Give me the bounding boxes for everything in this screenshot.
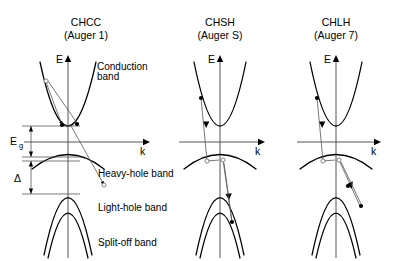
chcc-split-off-energy-label: Δ (14, 172, 21, 184)
panel-chlh: CHLH (Auger 7) E k (297, 16, 381, 258)
panel-chlh-title-line1: CHLH (322, 16, 351, 28)
chlh-excited-hole-marker (359, 204, 363, 208)
panel-chsh-title-line2: (Auger S) (198, 29, 243, 41)
chcc-gap-arrow-up (29, 126, 33, 132)
chcc-split-arrow-up (29, 161, 33, 167)
chcc-conduction-band-label-line2: band (97, 71, 119, 82)
chcc-electron-marker-1 (60, 123, 64, 127)
chsh-energy-axis-label: E (208, 53, 215, 65)
chcc-energy-gap-subscript: g (19, 141, 23, 150)
chlh-energy-axis-arrowhead (333, 55, 339, 62)
panel-chcc-title-line1: CHCC (71, 16, 102, 28)
chsh-split-off-hole-marker (230, 220, 234, 224)
chlh-transition-light-hole-path (341, 162, 362, 206)
auger-band-diagram-figure: CHCC (Auger 1) E k Conduction band E g (0, 0, 399, 261)
chcc-electron-marker-2 (75, 122, 79, 126)
chcc-transition-excited-electron (46, 82, 62, 125)
chlh-momentum-axis-label: k (371, 145, 377, 157)
chcc-transition-collision-path (48, 81, 77, 123)
chcc-momentum-axis-label: k (140, 145, 146, 157)
panel-chcc: CHCC (Auger 1) E k Conduction band E g (10, 16, 174, 258)
chcc-energy-axis-label: E (56, 53, 63, 65)
chlh-valence-marker-left (321, 159, 325, 163)
chcc-heavy-hole-band-label: Heavy-hole band (98, 168, 174, 179)
chsh-transition-split-off-path (224, 163, 232, 222)
chlh-electron-marker (315, 96, 319, 100)
chsh-valence-marker-left (205, 159, 209, 163)
chcc-hole-marker (102, 183, 106, 187)
chsh-momentum-axis-label: k (255, 145, 261, 157)
chcc-excited-electron-marker (44, 79, 48, 83)
panel-chsh: CHSH (Auger S) E k (179, 16, 265, 258)
panel-chlh-title-line2: (Auger 7) (314, 29, 358, 41)
chcc-gap-arrow-down (29, 152, 33, 158)
chcc-energy-gap-label: E (10, 135, 17, 147)
chcc-light-hole-band-label: Light-hole band (98, 202, 167, 213)
band-diagram-svg: CHCC (Auger 1) E k Conduction band E g (0, 0, 399, 261)
chcc-energy-axis-arrowhead (65, 55, 71, 62)
chsh-energy-axis-arrowhead (217, 55, 223, 62)
chcc-split-off-band-label: Split-off band (98, 237, 157, 248)
chcc-split-arrow-down (29, 189, 33, 195)
panel-chcc-title-line2: (Auger 1) (64, 29, 108, 41)
panel-chsh-title-line1: CHSH (205, 16, 235, 28)
chlh-energy-axis-label: E (324, 53, 331, 65)
chsh-valence-marker-right (221, 158, 225, 162)
chlh-light-hole-marker (346, 184, 350, 188)
chlh-valence-marker-right (337, 158, 341, 162)
chsh-electron-marker (199, 96, 203, 100)
